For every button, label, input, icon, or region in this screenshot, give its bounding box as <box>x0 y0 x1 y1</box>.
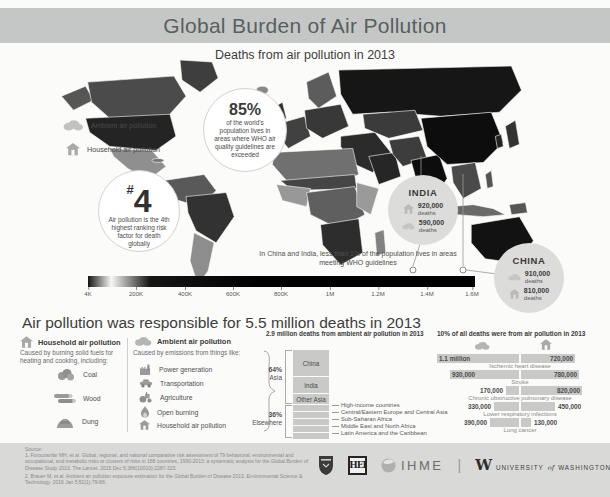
segment-other-asia: Other Asia <box>293 394 329 404</box>
ubc-crest-logo <box>318 455 334 475</box>
all-deaths-chart-title: 10% of all deaths were from air pollutio… <box>437 330 585 337</box>
household-bar <box>521 402 555 411</box>
map-philippines <box>485 170 493 188</box>
coal-icon <box>56 368 76 381</box>
uw-w-mark: W <box>475 456 492 474</box>
uw-logo: W UNIVERSITY of WASHINGTON <box>475 456 610 474</box>
map-se-asia <box>451 162 481 198</box>
cause-item-label: Dung <box>82 418 98 425</box>
ambient-column-title: Ambient air pollution <box>157 337 231 346</box>
deaths-word: deaths <box>525 278 543 284</box>
ambient-column-header: Ambient air pollution <box>134 336 231 346</box>
population-text: of the world's population lives in areas… <box>204 119 286 159</box>
segment-cee-central-asia <box>293 412 329 418</box>
cloud-icon <box>134 336 152 346</box>
scale-tick: 4K <box>84 291 91 297</box>
ihme-label: IHME <box>401 458 444 473</box>
row-lung-cancer: 390,000 130,000 <box>435 418 605 427</box>
household-column-header: Household air pollution <box>20 336 121 348</box>
india-ambient-row: 590,000deaths <box>402 219 444 234</box>
infographic-poster: Global Burden of Air Pollution Deaths fr… <box>0 0 610 497</box>
india-ambient-value: 590,000 <box>419 219 444 226</box>
cause-item-power-generation: Power generation <box>139 364 212 375</box>
map-papua-new-guinea <box>509 203 527 215</box>
leader-sub-saharan-africa: Sub-Saharan Africa <box>332 416 392 422</box>
cause-item-open-burning: Open burning <box>140 406 198 418</box>
source-line-2: 2. Brauer M, et al. Ambient air pollutio… <box>25 473 310 485</box>
disease-label: Lung cancer <box>435 427 605 434</box>
map-greenland <box>180 60 218 92</box>
transportation-icon <box>139 378 153 388</box>
house-icon <box>66 142 80 156</box>
map-scandinavia <box>307 72 337 108</box>
deaths-word: deaths <box>418 210 436 216</box>
scale-tick: 200K <box>129 291 143 297</box>
agriculture-icon <box>139 392 153 403</box>
cloud-icon <box>474 341 490 350</box>
cloud-icon <box>62 119 84 131</box>
disease-label: Lower respiratory infections <box>435 411 605 418</box>
rank-callout: #4 Air pollution is the 4th highest rank… <box>98 170 180 252</box>
source-line-1: 1. Forouzanfar MH, et al. Global, region… <box>25 452 310 471</box>
wood-icon <box>53 392 76 405</box>
leader-mena: Middle East and North Africa <box>332 423 416 429</box>
disease-label: Stroke <box>435 379 605 386</box>
cloud-icon <box>508 273 521 281</box>
house-icon <box>20 336 33 348</box>
segment-sub-saharan-africa <box>293 419 329 425</box>
india-callout: INDIA 920,000deaths 590,000deaths <box>388 175 458 245</box>
map-west-africa <box>276 185 310 207</box>
leader-high-income: High-income countries <box>332 402 400 408</box>
cause-item-household: Household air pollution <box>139 420 226 430</box>
who-guidelines-note: In China and India, less than 1% of the … <box>258 249 458 267</box>
cause-item-dung: Dung <box>55 415 98 428</box>
legend-ambient-label: Ambient air pollution <box>91 121 156 130</box>
row-copd: 170,000 820,000 <box>435 386 605 395</box>
map-canada <box>88 76 186 118</box>
india-household-row: 920,000deaths <box>403 202 443 217</box>
map-russia <box>339 66 522 116</box>
household-column-desc: Caused by burning solid fuels for heatin… <box>20 349 124 365</box>
cause-item-wood: Wood <box>53 392 101 405</box>
leader-cee-central-asia: Central/Eastern Europe and Central Asia <box>332 409 447 415</box>
scale-tick: 800K <box>274 291 288 297</box>
deaths-word: deaths <box>524 295 542 301</box>
rank-text: Air pollution is the 4th highest ranking… <box>99 216 179 248</box>
scale-tick: 400K <box>178 291 192 297</box>
cloud-icon <box>402 222 415 230</box>
hei-logo: HEI <box>348 456 367 475</box>
cause-item-transportation: Transportation <box>139 378 204 388</box>
logo-row: HEI IHME | W UNIVERSITY of WASHINGTON <box>318 455 610 475</box>
map-brazil <box>186 193 234 243</box>
ambient-bar <box>506 386 519 395</box>
china-label: CHINA <box>512 255 545 266</box>
house-icon <box>403 204 414 214</box>
legend-ambient: Ambient air pollution <box>62 119 156 131</box>
ambient-deaths-stacked-bar: China India Other Asia <box>293 350 329 440</box>
china-ambient-value: 910,000 <box>525 270 550 277</box>
cause-item-label: Transportation <box>160 380 204 387</box>
elsewhere-group-bracket <box>285 405 292 438</box>
china-household-value: 810,000 <box>524 287 549 294</box>
row-stroke: 930,000 780,000 <box>435 370 605 379</box>
map-caribbean <box>152 158 164 162</box>
population-pct: 85% <box>229 101 261 119</box>
ambient-column-desc: Caused by emissions from things like: <box>133 349 261 357</box>
disease-bars-chart: 1.1 million 720,000 Ischemic heart disea… <box>435 354 605 434</box>
logo-divider: | <box>458 457 462 473</box>
cause-item-label: Coal <box>83 371 97 378</box>
title-bar: Global Burden of Air Pollution <box>0 8 610 43</box>
house-icon <box>509 289 520 299</box>
segment-mena <box>293 426 329 432</box>
segment-india: India <box>293 377 329 393</box>
cause-item-label: Agriculture <box>160 394 193 401</box>
scale-tick: 1M <box>326 291 334 297</box>
india-household-value: 920,000 <box>418 202 443 209</box>
ambient-bar <box>490 418 519 427</box>
scale-tick: 1.6M <box>465 291 478 297</box>
map-alaska <box>61 86 93 110</box>
page-title: Global Burden of Air Pollution <box>163 14 446 38</box>
deaths-word: deaths <box>419 227 437 233</box>
china-ambient-row: 910,000deaths <box>508 270 550 285</box>
population-callout: 85% of the world's population lives in a… <box>203 88 287 172</box>
